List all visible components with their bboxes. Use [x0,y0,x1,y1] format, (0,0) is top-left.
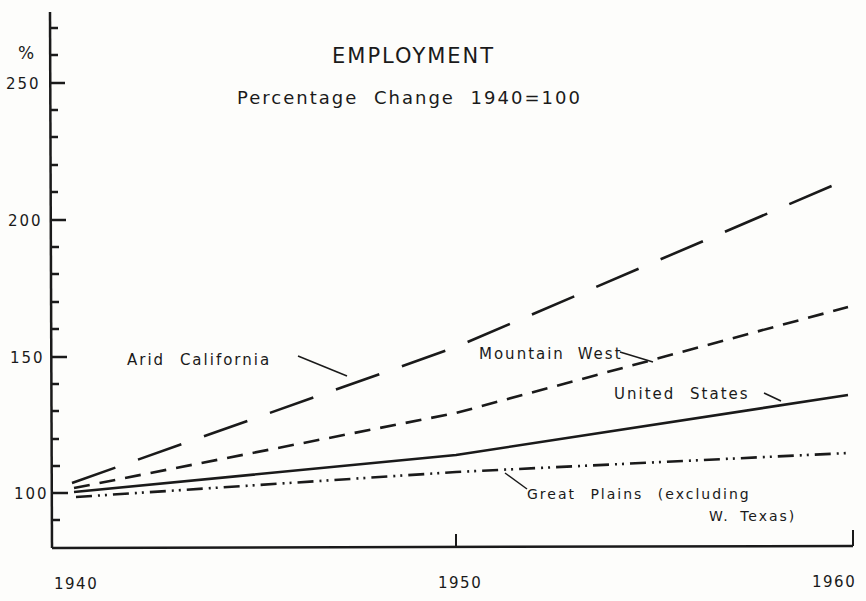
series-united-states [74,395,848,492]
y-axis [50,12,52,548]
label-mountain-west: Mountain West [479,345,623,363]
x-tick-label-1940: 1940 [54,575,98,593]
x-axis [52,530,853,548]
y-tick-label-250: 250 [6,75,41,93]
chart-title: EMPLOYMENT [332,44,495,68]
y-unit-label: % [18,43,34,63]
leader-great-plains [505,473,527,489]
series-arid-california [72,179,848,483]
y-tick-label-150: 150 [10,349,45,367]
x-tick-label-1960: 1960 [812,573,856,591]
label-great-plains-line2: W. Texas) [709,508,796,524]
leader-arid-california [298,356,347,376]
leader-united-states [764,393,781,401]
chart-subtitle: Percentage Change 1940=100 [237,87,582,108]
y-tick-label-200: 200 [8,212,43,230]
x-tick-label-1950: 1950 [438,574,482,592]
y-tick-label-100: 100 [14,485,49,503]
label-arid-california: Arid California [127,351,271,369]
label-united-states: United States [614,385,750,403]
label-great-plains-line1: Great Plains (excluding [527,486,751,502]
employment-chart: % 250 200 150 100 1940 1950 1960 EMPLOYM… [0,0,866,601]
leader-mountain-west [620,352,653,362]
